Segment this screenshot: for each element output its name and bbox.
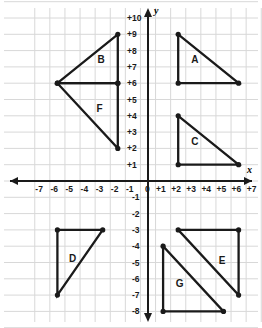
vertex-G-1 (161, 309, 166, 314)
x-tick-label-neg4: -4 (81, 185, 89, 194)
x-tick-label-pos3: +3 (186, 185, 196, 194)
vertex-F-0 (55, 81, 60, 86)
vertex-A-0 (176, 32, 181, 37)
y-tick-label-pos7: +7 (127, 63, 137, 72)
vertex-C-2 (236, 162, 241, 167)
y-axis-label: y (154, 6, 158, 16)
coordinate-plane-figure: -7-6-5-4-3-2-10+1+2+3+4+5+6+7+10+9+8+7+6… (0, 0, 262, 328)
x-axis-label: x (247, 165, 252, 175)
x-tick-label-pos7: +7 (247, 185, 257, 194)
y-tick-label-pos2: +2 (127, 144, 137, 153)
triangle-C (178, 116, 238, 165)
triangle-A (178, 34, 238, 83)
vertex-E-0 (176, 227, 181, 232)
y-tick-label-pos5: +5 (127, 96, 137, 105)
x-tick-label-neg3: -3 (96, 185, 104, 194)
triangle-label-A: A (191, 55, 198, 65)
y-tick-label-neg5: -5 (132, 259, 140, 268)
vertex-D-0 (55, 227, 60, 232)
triangle-label-D: D (69, 254, 76, 264)
vertex-A-2 (236, 81, 241, 86)
y-tick-label-pos4: +4 (127, 112, 137, 121)
vertex-D-2 (55, 293, 60, 298)
y-tick-label-pos6: +6 (127, 79, 137, 88)
vertex-G-2 (221, 309, 226, 314)
x-tick-label-neg7: -7 (35, 185, 43, 194)
triangle-label-G: G (176, 279, 184, 289)
vertex-D-1 (100, 227, 105, 232)
y-tick-label-neg8: -8 (132, 307, 140, 316)
vertex-C-1 (176, 162, 181, 167)
y-tick-label-pos9: +9 (127, 30, 137, 39)
triangle-label-E: E (219, 256, 226, 266)
vertex-F-1 (115, 81, 120, 86)
y-tick-label-neg2: -2 (132, 210, 140, 219)
vertex-E-2 (236, 293, 241, 298)
y-tick-label-pos10: +10 (127, 14, 141, 23)
y-tick-label-neg7: -7 (132, 291, 140, 300)
y-tick-label-pos8: +8 (127, 47, 137, 56)
x-tick-label-pos2: +2 (171, 185, 181, 194)
y-tick-label-neg6: -6 (132, 275, 140, 284)
x-tick-label-neg2: -2 (111, 185, 119, 194)
y-tick-label-pos1: +1 (127, 161, 137, 170)
triangle-label-B: B (98, 55, 105, 65)
y-tick-label-neg3: -3 (132, 226, 140, 235)
triangle-label-C: C (191, 137, 198, 147)
x-tick-label-neg6: -6 (50, 185, 58, 194)
x-tick-label-pos6: +6 (232, 185, 242, 194)
triangle-B (57, 34, 117, 83)
triangle-D (57, 230, 102, 295)
vertex-A-1 (176, 81, 181, 86)
x-tick-label-neg5: -5 (66, 185, 74, 194)
vertex-B-1 (115, 32, 120, 37)
y-tick-label-neg4: -4 (132, 242, 140, 251)
vertex-F-2 (115, 146, 120, 151)
triangle-label-F: F (97, 104, 103, 114)
x-tick-label-pos1: +1 (156, 185, 166, 194)
vertex-G-0 (161, 244, 166, 249)
y-tick-label-pos3: +3 (127, 128, 137, 137)
vertex-E-1 (236, 227, 241, 232)
triangle-F (57, 83, 117, 148)
x-tick-label-pos4: +4 (201, 185, 211, 194)
triangle-G (163, 246, 223, 311)
y-tick-label-neg1: -1 (132, 193, 140, 202)
vertex-C-0 (176, 113, 181, 118)
x-tick-label-pos5: +5 (217, 185, 227, 194)
x-tick-label-0: 0 (145, 185, 150, 194)
triangle-E (178, 230, 238, 295)
